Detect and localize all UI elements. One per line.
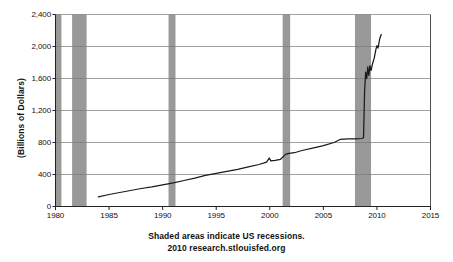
y-tick-label: 1,600 (22, 74, 51, 83)
x-tick-label: 1990 (148, 211, 178, 220)
y-tick-label: 0 (22, 202, 51, 211)
data-line-monetary-base (98, 35, 381, 197)
x-tick-label: 1995 (201, 211, 231, 220)
y-tick-label: 2,400 (22, 10, 51, 19)
y-tick-label: 1,200 (22, 106, 51, 115)
x-tick-label: 2015 (416, 211, 446, 220)
x-tick-label: 2000 (255, 211, 285, 220)
footer-recession-note: Shaded areas indicate US recessions. (0, 231, 453, 241)
y-tick-label: 800 (22, 138, 51, 147)
chart-container: (Billions of Dollars) 04008001,2001,6002… (0, 0, 453, 262)
x-tick-label: 2005 (308, 211, 338, 220)
x-tick-label: 2010 (362, 211, 392, 220)
y-tick-label: 400 (22, 170, 51, 179)
x-tick-label: 1985 (94, 211, 124, 220)
gridlines (56, 15, 431, 175)
y-tick-label: 2,000 (22, 42, 51, 51)
axis-tick-marks (53, 15, 431, 211)
footer-source: 2010 research.stlouisfed.org (0, 243, 453, 253)
x-tick-label: 1980 (41, 211, 71, 220)
plot-area (0, 0, 453, 262)
